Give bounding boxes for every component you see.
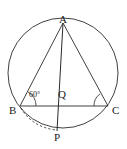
circumscribed-circle [8, 18, 118, 128]
vertex-label-b: B [9, 105, 16, 116]
point-label-q: Q [58, 89, 66, 100]
chord-ab [20, 23, 63, 106]
chord-ac [63, 23, 108, 106]
vertex-label-a: A [59, 14, 67, 25]
angle-arc-c [94, 94, 100, 106]
angle-label-60-degrees: 60° [29, 91, 40, 99]
vertex-label-p: P [54, 132, 60, 143]
geometry-figure: A B C P Q 60° [0, 0, 127, 149]
chord-ap [57, 23, 63, 131]
vertex-label-c: C [112, 105, 119, 116]
